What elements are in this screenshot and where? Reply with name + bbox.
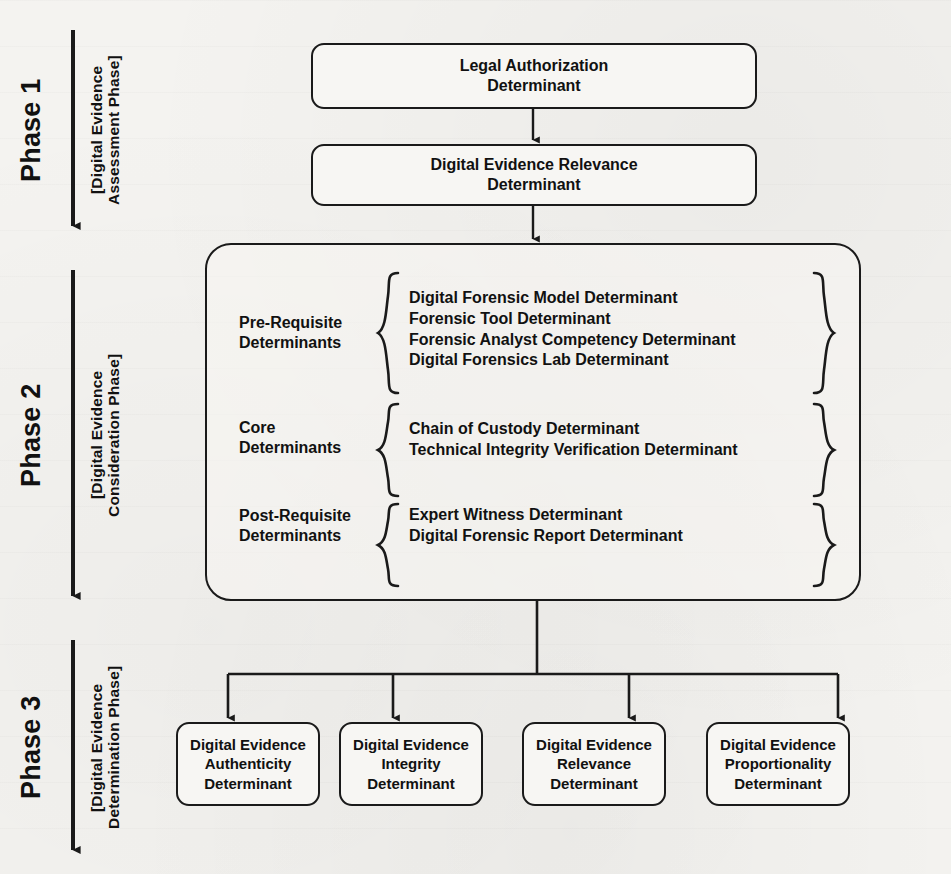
phase-2-title: Phase 2 xyxy=(16,270,47,600)
phase-1-subtitle: [Digital Evidence Assessment Phase] xyxy=(88,30,123,230)
phase-1-subtitle-line2: Assessment Phase] xyxy=(105,30,122,230)
phase-1-subtitle-line1: [Digital Evidence xyxy=(88,66,105,194)
phase-1-title: Phase 1 xyxy=(16,30,47,230)
phase-2-subtitle-line2: Consideration Phase] xyxy=(105,270,122,600)
phase-column: Phase 1 [Digital Evidence Assessment Pha… xyxy=(0,0,951,874)
diagram-canvas: Phase 1 [Digital Evidence Assessment Pha… xyxy=(0,0,951,874)
phase-3-title: Phase 3 xyxy=(16,640,47,855)
phase-2-subtitle: [Digital Evidence Consideration Phase] xyxy=(88,270,123,600)
phase-3-subtitle-line2: Determination Phase] xyxy=(105,640,122,855)
phase-2-subtitle-line1: [Digital Evidence xyxy=(88,371,105,499)
phase-3-subtitle-line1: [Digital Evidence xyxy=(88,683,105,811)
phase-3-subtitle: [Digital Evidence Determination Phase] xyxy=(88,640,123,855)
